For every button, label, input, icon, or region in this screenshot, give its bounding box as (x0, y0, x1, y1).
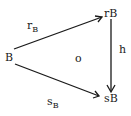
node-sB: sB (104, 93, 118, 104)
label-s: s (47, 95, 53, 108)
label-h: h (119, 44, 126, 55)
label-r-B: rB (27, 20, 38, 31)
arrow-s-B (15, 64, 99, 98)
center-mark: o (75, 53, 82, 64)
label-s-B: sB (47, 96, 59, 107)
label-r-subscript: B (32, 25, 38, 34)
node-rB: rB (104, 8, 117, 19)
node-sB-text: sB (104, 92, 118, 105)
commutative-diagram: B rB sB rB sB h o (0, 0, 131, 116)
node-B-text: B (5, 51, 13, 64)
node-B: B (5, 52, 13, 63)
arrow-h (107, 19, 115, 92)
node-rB-text: rB (104, 7, 117, 20)
label-s-subscript: B (53, 101, 59, 110)
label-h-text: h (119, 43, 126, 56)
center-mark-text: o (75, 52, 82, 65)
